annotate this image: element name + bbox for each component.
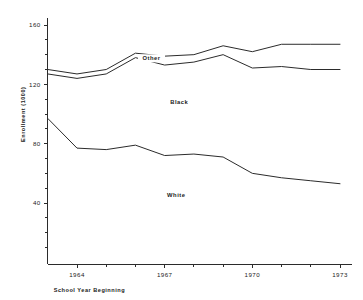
- x-axis-tick-label: 1964: [69, 271, 85, 278]
- series-line-black: [48, 55, 340, 79]
- y-axis-tick-label: 40: [33, 199, 41, 206]
- chart-series: [48, 44, 340, 183]
- chart-figure: OtherBlackWhite 408012016019641967197019…: [0, 0, 363, 300]
- y-axis-tick-label: 160: [29, 21, 41, 28]
- series-line-white: [48, 118, 340, 183]
- series-annotation-black: Black: [170, 99, 188, 105]
- chart-annotations: OtherBlackWhite: [138, 54, 193, 199]
- y-axis-tick-label: 120: [29, 81, 41, 88]
- y-axis-tick-label: 80: [33, 140, 41, 147]
- chart-axis-titles: Enrollment (1000)School Year Beginning: [20, 87, 125, 293]
- series-annotation-white: White: [167, 192, 186, 198]
- x-axis-title: School Year Beginning: [54, 287, 125, 293]
- x-axis-tick-label: 1973: [332, 271, 348, 278]
- chart-tick-labels: 40801201601964196719701973: [29, 21, 348, 278]
- x-axis-tick-label: 1970: [245, 271, 261, 278]
- series-line-other: [48, 44, 340, 74]
- y-axis-title: Enrollment (1000): [20, 87, 26, 142]
- x-axis-tick-label: 1967: [157, 271, 173, 278]
- series-annotation-other: Other: [142, 55, 160, 61]
- enrollment-line-chart: OtherBlackWhite 408012016019641967197019…: [0, 0, 363, 300]
- chart-axes: [44, 18, 352, 268]
